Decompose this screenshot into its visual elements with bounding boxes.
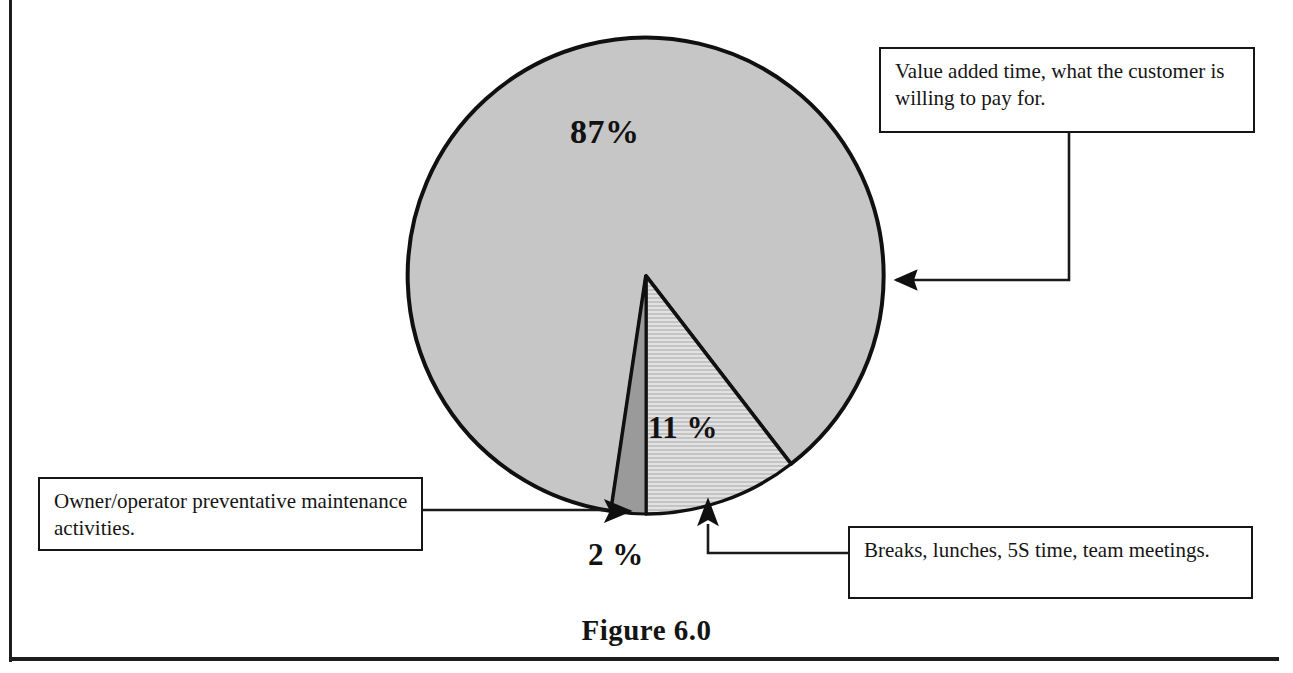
pie-label-11-percent: 11 % [648, 410, 718, 446]
callout-breaks-lunches: Breaks, lunches, 5S time, team meetings. [848, 526, 1253, 599]
pie-label-2-percent: 2 % [588, 537, 644, 573]
connector-breaks [699, 500, 848, 553]
connector-value-added [896, 133, 1069, 289]
figure-caption: Figure 6.0 [0, 614, 1293, 647]
callout-owner-operator-maintenance: Owner/operator preventative maintenance … [38, 477, 423, 551]
figure-container: 87% 11 % 2 % Value added time, what the … [0, 0, 1293, 673]
pie-label-87-percent: 87% [570, 113, 640, 151]
callout-value-added-time: Value added time, what the customer is w… [879, 47, 1255, 133]
